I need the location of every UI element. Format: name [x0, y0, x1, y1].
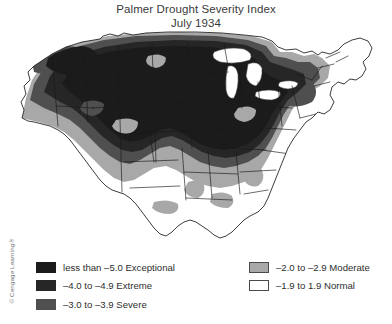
map-legend: less than –5.0 Exceptional–4.0 to –4.9 E…	[0, 258, 392, 324]
legend-swatch	[36, 299, 56, 310]
legend-label: –2.0 to –2.9 Moderate	[276, 262, 370, 273]
lake-superior	[213, 48, 251, 63]
legend-column-left: less than –5.0 Exceptional–4.0 to –4.9 E…	[36, 258, 175, 314]
legend-column-right: –2.0 to –2.9 Moderate–1.9 to 1.9 Normal	[249, 258, 370, 295]
legend-swatch	[36, 280, 56, 291]
legend-label: –1.9 to 1.9 Normal	[276, 280, 355, 291]
band-moderate-southeast	[244, 165, 263, 186]
legend-label: less than –5.0 Exceptional	[63, 262, 175, 273]
legend-item: less than –5.0 Exceptional	[36, 258, 175, 277]
legend-label: –3.0 to –3.9 Severe	[63, 299, 147, 310]
legend-item: –4.0 to –4.9 Extreme	[36, 277, 175, 296]
legend-item: –2.0 to –2.9 Moderate	[249, 258, 370, 277]
drought-map-figure: Palmer Drought Severity Index July 1934	[0, 0, 392, 324]
legend-item: –1.9 to 1.9 Normal	[249, 277, 370, 296]
us-drought-map	[0, 22, 392, 254]
map-svg	[0, 22, 392, 254]
legend-label: –4.0 to –4.9 Extreme	[63, 280, 152, 291]
title-line-primary: Palmer Drought Severity Index	[0, 2, 392, 16]
legend-swatch	[249, 262, 269, 273]
legend-item: –3.0 to –3.9 Severe	[36, 295, 175, 314]
map-drought-bands	[0, 22, 392, 254]
legend-swatch	[249, 280, 269, 291]
legend-swatch	[36, 262, 56, 273]
